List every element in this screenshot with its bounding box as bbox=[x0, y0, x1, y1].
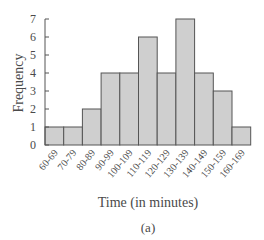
bar-130-139 bbox=[176, 19, 195, 145]
y-tick-label: 3 bbox=[30, 84, 36, 98]
bar-100-109 bbox=[120, 73, 139, 145]
figure-caption: (a) bbox=[141, 220, 155, 235]
bar-110-119 bbox=[139, 37, 158, 145]
bar-120-129 bbox=[157, 73, 176, 145]
y-tick-label: 1 bbox=[30, 120, 36, 134]
y-tick-label: 5 bbox=[30, 48, 36, 62]
x-axis-label: Time (in minutes) bbox=[98, 195, 199, 211]
y-tick-label: 4 bbox=[30, 66, 36, 80]
x-axis-tick-labels: 60-6970-7980-8990-99100-109110-119120-12… bbox=[36, 147, 246, 180]
y-tick-label: 2 bbox=[30, 102, 36, 116]
bars-group bbox=[45, 19, 251, 145]
bar-80-89 bbox=[82, 109, 101, 145]
x-tick-label: 80-89 bbox=[74, 147, 97, 172]
bar-70-79 bbox=[64, 127, 83, 145]
y-tick-label: 0 bbox=[30, 138, 36, 152]
y-tick-label: 6 bbox=[30, 30, 36, 44]
histogram-chart: 01234567 60-6970-7980-8990-99100-109110-… bbox=[0, 0, 264, 240]
x-tick-label: 60-69 bbox=[36, 147, 59, 172]
x-tick-label: 70-79 bbox=[55, 147, 78, 172]
bar-140-149 bbox=[195, 73, 214, 145]
bar-150-159 bbox=[213, 91, 232, 145]
y-tick-label: 7 bbox=[30, 12, 36, 26]
y-axis-label: Frequency bbox=[11, 53, 26, 112]
bar-90-99 bbox=[101, 73, 120, 145]
bar-60-69 bbox=[45, 127, 64, 145]
bar-160-169 bbox=[232, 127, 251, 145]
